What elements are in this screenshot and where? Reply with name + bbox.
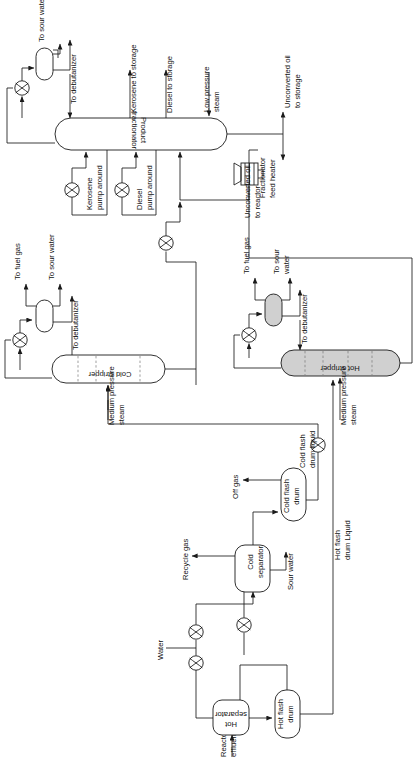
- label-hot-flash-drum-line1: Hot flash: [276, 699, 285, 729]
- line-condenser-to-reflux-drum: [22, 68, 34, 81]
- label-recycle-gas: Recycle gas: [181, 538, 190, 580]
- label-cold-flash-drum-line2: drum: [292, 487, 301, 504]
- line-hot-flash-vapour: [240, 665, 287, 690]
- label-kerosene-to-storage: Kerosene to storage: [129, 45, 138, 113]
- line-sour-water: [270, 552, 286, 570]
- line-hot-flash-drum-liquid: [300, 380, 333, 714]
- line-cold-bottoms-to-heater: [166, 202, 180, 236]
- label-diesel-pump-around: Diesel pump around: [135, 165, 154, 210]
- process-flow-diagram: To sour water To debutanizer Product fra…: [0, 0, 420, 763]
- label-cold-to-sour-water: To sour water: [47, 234, 56, 280]
- line-condenser-coolant-return: [7, 88, 55, 143]
- hot-stripper-condenser: [242, 328, 256, 342]
- label-cold-flash-drum-liquid: Cold flash drum liquid: [298, 431, 317, 468]
- label-to-sour-water-fractionator: To sour water: [37, 0, 46, 42]
- line-cold-sep-to-cold-flash: [253, 512, 278, 545]
- label-unconverted-oil-to-storage: Unconverted oil to storage: [283, 53, 302, 108]
- line-diesel-pumparound-return: [122, 152, 136, 183]
- line-cold-to-debutanizer: [53, 296, 72, 322]
- label-cold-to-fuel-gas: To fuel gas: [13, 243, 22, 280]
- cold-flash-exchanger: [237, 618, 251, 632]
- line-heater-inlet-top: [249, 150, 258, 163]
- line-hot-condenser-return: [234, 335, 281, 368]
- fractionator-overhead-condenser: [15, 81, 29, 95]
- label-hot-separator-line2: Hot: [224, 720, 237, 729]
- line-cold-to-fuel-gas: [26, 284, 36, 306]
- line-hot-to-fuel-gas: [255, 278, 265, 300]
- kerosene-pump-around-exchanger: [65, 183, 79, 197]
- label-cold-flash-drum-line1: Cold flash: [282, 479, 291, 513]
- line-cold-condenser-return: [5, 340, 52, 378]
- label-sour-water: Sour water: [286, 553, 295, 590]
- label-hot-to-sour-water: To sour water: [272, 247, 291, 275]
- effluent-air-cooler-1: [189, 656, 203, 670]
- label-low-pressure-steam: Low pressure steam: [202, 64, 221, 112]
- label-hot-separator-line1: separator: [214, 710, 247, 719]
- line-to-debutanizer-fractionator: [53, 40, 70, 70]
- separator-section: Reactor effluent separator Hot Hot flash…: [108, 380, 352, 757]
- label-off-gas: Off gas: [231, 474, 240, 499]
- effluent-air-cooler-2: [189, 625, 203, 639]
- label-diesel-to-storage: Diesel to storage: [165, 56, 174, 113]
- line-to-sour-water-fractionator: [53, 44, 60, 54]
- cold-stripper-reflux-drum: [36, 300, 53, 332]
- line-hot-to-sour-water: [282, 278, 290, 300]
- label-hot-to-debutanizer: To debutanizer: [300, 294, 309, 344]
- line-kerosene-pumparound-return: [72, 152, 86, 183]
- line-hot-sep-vapour: [196, 670, 213, 718]
- label-product-fractionator-line2: fractionator: [130, 111, 139, 149]
- label-kerosene-pump-around: Kerosene pump around: [85, 165, 104, 210]
- line-hot-condenser-to-drum: [249, 314, 262, 328]
- label-hot-flash-drum-line2: drum: [286, 705, 295, 722]
- label-hot-to-fuel-gas: To fuel gas: [242, 237, 251, 274]
- label-hot-flash-drum-liquid: Hot flash drum Liquid: [333, 520, 352, 560]
- label-water: Water: [156, 640, 165, 660]
- label-cold-separator-line1: Cold: [246, 554, 255, 570]
- line-cold-condenser-to-drum: [20, 320, 32, 333]
- line-heater-to-fractionator: [180, 186, 249, 200]
- line-cold-stripper-bottoms: [166, 252, 196, 386]
- diesel-pump-around-exchanger: [115, 183, 129, 197]
- label-cold-separator-line2: separator: [256, 545, 265, 578]
- hot-stripper-reflux-drum: [265, 294, 282, 326]
- fractionator-reflux-drum: [36, 48, 53, 80]
- cold-stripper-bottoms-exchanger: [159, 236, 173, 250]
- cold-stripper-section: To fuel gas To sour water To debutanizer…: [5, 202, 196, 425]
- cold-stripper-condenser: [13, 333, 27, 347]
- line-hot-to-debutanizer: [282, 290, 300, 316]
- line-cold-to-sour-water: [53, 284, 60, 306]
- label-product-fractionator-line1: Product: [139, 117, 148, 144]
- fractionator-section: To sour water To debutanizer Product fra…: [7, 0, 302, 218]
